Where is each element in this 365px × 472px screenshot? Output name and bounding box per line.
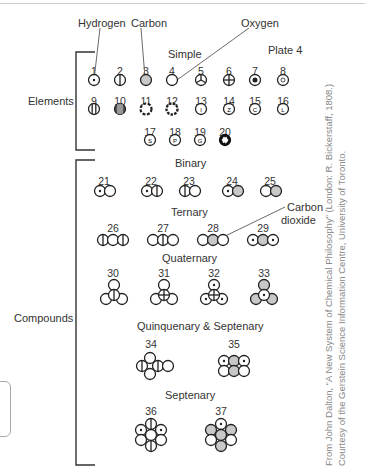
credit-line-2: Courtesy of the Gerstein Science Informa…: [335, 84, 348, 466]
svg-text:Z: Z: [227, 107, 231, 113]
side-tab-box: [0, 381, 11, 437]
dalton-symbols-diagram: I Z C L S P G: [0, 0, 365, 472]
credit-line-1: From John Dalton, “A New System of Chemi…: [322, 84, 335, 466]
svg-text:P: P: [173, 138, 177, 144]
svg-text:C: C: [253, 107, 258, 113]
svg-text:G: G: [198, 138, 203, 144]
svg-text:S: S: [148, 138, 152, 144]
image-credit: From John Dalton, “A New System of Chemi…: [322, 84, 348, 466]
